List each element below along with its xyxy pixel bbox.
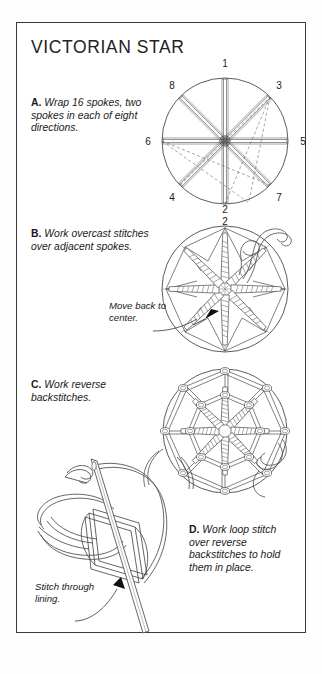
- step-d-text: Work loop stitch over reverse backstitch…: [189, 524, 280, 573]
- instruction-sheet: VICTORIAN STAR: [16, 22, 306, 633]
- figure-a-center-knot: [220, 136, 230, 146]
- figure-b-working-thread: [239, 229, 291, 283]
- step-a-text: Wrap 16 spokes, two spokes in each of ei…: [31, 97, 141, 133]
- step-a-caption: A. Wrap 16 spokes, two spokes in each of…: [31, 97, 151, 135]
- figure-a-dashed-lines: [162, 97, 270, 204]
- step-b-caption: B. Work overcast stitches over adjacent …: [31, 228, 153, 253]
- step-c-text: Work reverse backstitches.: [31, 379, 106, 403]
- callout-move-back-leader: [153, 315, 199, 341]
- figure-b-overcast-star: 2: [139, 201, 311, 373]
- step-d-caption: D. Work loop stitch over reverse backsti…: [189, 524, 299, 574]
- figure-d-needle: [91, 459, 149, 633]
- callout-stitch-text: Stitch through lining.: [35, 581, 94, 604]
- step-d-letter: D.: [189, 524, 199, 535]
- figure-d-loop-stitch-detail: [25, 455, 200, 640]
- figure-c-working-thread: [253, 439, 286, 497]
- figure-b-label-2: 2: [222, 204, 228, 215]
- step-c-letter: C.: [31, 379, 41, 390]
- figure-d-thread-tail-right: [177, 457, 193, 489]
- page-canvas: VICTORIAN STAR: [0, 0, 322, 674]
- step-a-letter: A.: [31, 97, 41, 108]
- figure-a-label-3: 3: [276, 80, 282, 91]
- step-c-caption: C. Work reverse backstitches.: [31, 379, 151, 404]
- figure-a-label-1: 1: [222, 58, 228, 69]
- step-b-text: Work overcast stitches over adjacent spo…: [31, 228, 149, 252]
- figure-a-label-5: 5: [300, 136, 306, 147]
- figure-a-label-6: 6: [145, 136, 151, 147]
- step-b-letter: B.: [31, 228, 41, 239]
- callout-stitch-through-lining: Stitch through lining.: [35, 581, 95, 604]
- figure-a-label-8: 8: [169, 80, 175, 91]
